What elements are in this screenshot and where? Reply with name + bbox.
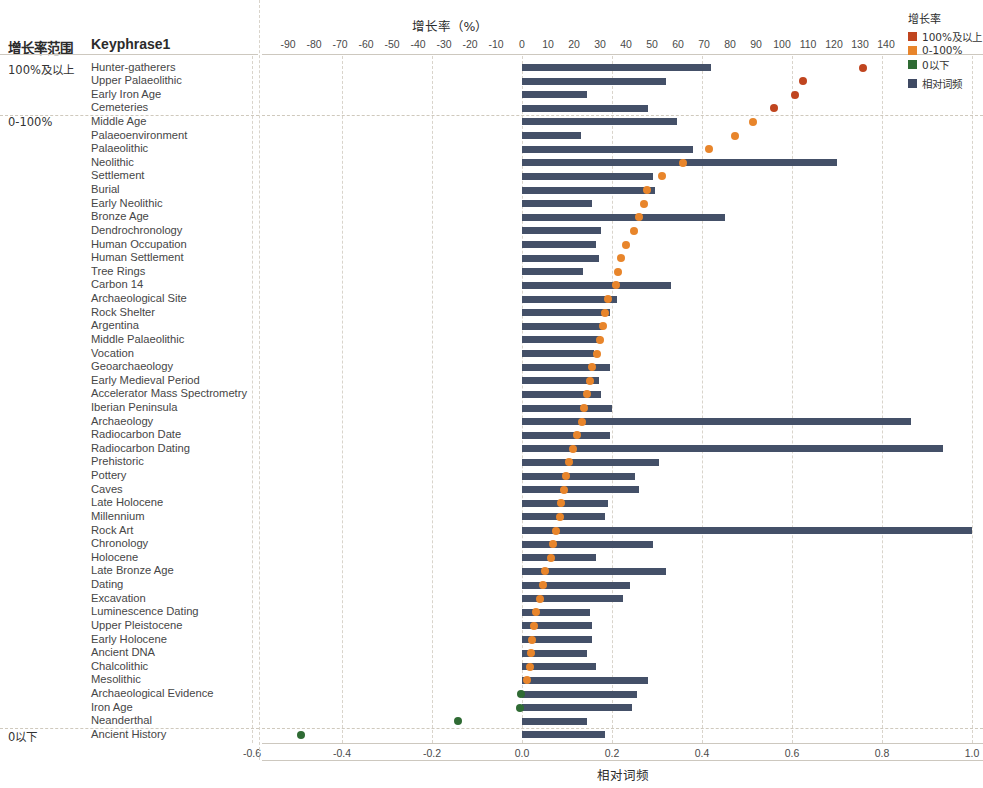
bar bbox=[522, 227, 601, 234]
growth-rate-point bbox=[532, 608, 540, 616]
keyphrase-label: Iron Age bbox=[91, 701, 133, 715]
label-column-divider bbox=[259, 0, 260, 760]
growth-rate-point bbox=[596, 336, 604, 344]
keyphrase-label: Upper Pleistocene bbox=[91, 619, 182, 633]
growth-rate-point bbox=[731, 132, 739, 140]
vertical-gridline bbox=[432, 56, 433, 743]
bar bbox=[522, 473, 635, 480]
bottom-tick-label: 0.6 bbox=[785, 747, 800, 759]
vertical-gridline bbox=[972, 56, 973, 743]
top-tick-label: 70 bbox=[698, 38, 710, 50]
bar bbox=[522, 445, 943, 452]
growth-rate-point bbox=[679, 159, 687, 167]
bar bbox=[522, 677, 648, 684]
legend-label: 相对词频 bbox=[922, 76, 962, 91]
keyphrase-label: Holocene bbox=[91, 551, 138, 565]
keyphrase-label: Palaeoenvironment bbox=[91, 129, 187, 143]
growth-rate-point bbox=[523, 676, 531, 684]
bar bbox=[522, 350, 594, 357]
growth-rate-point bbox=[749, 118, 757, 126]
bottom-tick-label: 0.2 bbox=[605, 747, 620, 759]
growth-rate-point bbox=[562, 472, 570, 480]
growth-rate-point bbox=[541, 567, 549, 575]
growth-rate-point bbox=[578, 418, 586, 426]
growth-rate-point bbox=[643, 186, 651, 194]
legend-item[interactable]: 0以下 bbox=[908, 57, 982, 71]
bar bbox=[522, 731, 605, 738]
group-separator bbox=[262, 115, 983, 116]
growth-rate-point bbox=[565, 458, 573, 466]
bar bbox=[522, 200, 592, 207]
bottom-tick-label: 0.8 bbox=[875, 747, 890, 759]
growth-rate-point bbox=[536, 595, 544, 603]
keyphrase-label: Mesolithic bbox=[91, 673, 141, 687]
group-separator bbox=[262, 728, 983, 729]
keyphrase-label: Early Holocene bbox=[91, 633, 167, 647]
growth-rate-point bbox=[573, 431, 581, 439]
growth-rate-point bbox=[528, 636, 536, 644]
top-tick-label: 130 bbox=[851, 38, 869, 50]
bar bbox=[522, 541, 653, 548]
growth-rate-point bbox=[791, 91, 799, 99]
top-tick-label: 50 bbox=[646, 38, 658, 50]
growth-rate-point bbox=[454, 717, 462, 725]
top-tick-label: 90 bbox=[750, 38, 762, 50]
growth-rate-point bbox=[557, 499, 565, 507]
bar bbox=[522, 432, 610, 439]
keyphrase-label: Upper Palaeolithic bbox=[91, 74, 182, 88]
top-axis-title: 增长率（%） bbox=[0, 16, 900, 35]
bar bbox=[522, 78, 666, 85]
keyphrase-label: Radiocarbon Dating bbox=[91, 442, 190, 456]
legend-items: 100%及以上0-100%0以下相对词频 bbox=[908, 29, 982, 90]
keyphrase-label: Early Medieval Period bbox=[91, 374, 200, 388]
top-tick-label: 10 bbox=[542, 38, 554, 50]
growth-rate-point bbox=[552, 527, 560, 535]
top-tick-label: 110 bbox=[800, 38, 817, 50]
growth-rate-point bbox=[516, 704, 524, 712]
header-rule-right bbox=[262, 54, 983, 55]
bar bbox=[522, 296, 617, 303]
legend-item[interactable]: 0-100% bbox=[908, 43, 982, 57]
top-tick-label: -10 bbox=[488, 38, 503, 50]
keyphrase-column-header: Keyphrase1 bbox=[91, 36, 170, 52]
bar bbox=[522, 459, 659, 466]
growth-rate-point bbox=[588, 363, 596, 371]
growth-rate-point bbox=[614, 268, 622, 276]
keyphrase-label: Hunter-gatherers bbox=[91, 61, 176, 75]
bar bbox=[522, 255, 599, 262]
keyphrase-label: Vocation bbox=[91, 347, 134, 361]
legend-label: 0以下 bbox=[922, 57, 949, 72]
bar bbox=[522, 527, 972, 534]
legend-swatch-icon bbox=[908, 79, 917, 88]
legend-swatch-icon bbox=[908, 32, 917, 41]
header-rule-left bbox=[0, 54, 258, 55]
keyphrase-label: Excavation bbox=[91, 592, 146, 606]
keyphrase-label: Chalcolithic bbox=[91, 660, 148, 674]
bar bbox=[522, 187, 655, 194]
keyphrase-label: Argentina bbox=[91, 319, 139, 333]
growth-rate-point bbox=[526, 663, 534, 671]
keyphrase-label: Iberian Peninsula bbox=[91, 401, 177, 415]
bar bbox=[522, 173, 653, 180]
keyphrase-label: Middle Age bbox=[91, 115, 146, 129]
top-tick-label: -50 bbox=[384, 38, 399, 50]
group-label: 100%及以上 bbox=[8, 61, 74, 77]
legend-item[interactable]: 100%及以上 bbox=[908, 29, 982, 43]
keyphrase-label: Middle Palaeolithic bbox=[91, 333, 184, 347]
growth-rate-point bbox=[527, 649, 535, 657]
keyphrase-label: Neanderthal bbox=[91, 714, 152, 728]
keyphrase-label: Human Occupation bbox=[91, 238, 187, 252]
top-tick-label: 140 bbox=[877, 38, 895, 50]
growth-rate-point bbox=[612, 281, 620, 289]
keyphrase-label: Radiocarbon Date bbox=[91, 428, 181, 442]
top-tick-label: 40 bbox=[620, 38, 632, 50]
bottom-tick-label: 0.0 bbox=[515, 747, 530, 759]
growth-rate-point bbox=[622, 241, 630, 249]
legend: 增长率 100%及以上0-100%0以下相对词频 bbox=[908, 10, 982, 90]
growth-rate-point bbox=[556, 513, 564, 521]
keyphrase-label: Ancient DNA bbox=[91, 646, 155, 660]
plot-bottom-rule bbox=[262, 743, 983, 744]
bar bbox=[522, 214, 725, 221]
keyphrase-label: Luminescence Dating bbox=[91, 605, 199, 619]
legend-item[interactable]: 相对词频 bbox=[908, 76, 982, 90]
